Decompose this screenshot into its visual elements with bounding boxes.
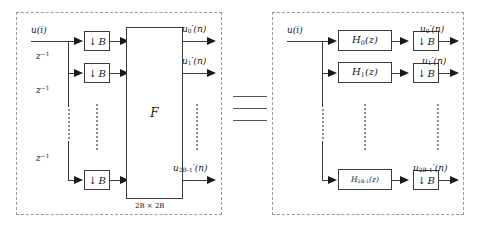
left-output-arrowhead-3 (207, 176, 216, 184)
left-delay-label-2: z−1 (36, 86, 49, 95)
right-row2-input-arrowhead (328, 69, 337, 77)
left-row3-input-arrowhead (74, 176, 83, 184)
left-output-arrowhead-1 (207, 37, 216, 45)
right-row1-mid-arrowhead (400, 37, 409, 45)
right-row2-mid-arrowhead (400, 69, 409, 77)
filter-block-h1: H1(z) (338, 62, 392, 83)
down-arrow-icon: ↓ (88, 175, 96, 186)
right-output-label-1: u0′(n) (420, 25, 444, 35)
right-output-arrowhead-3 (450, 176, 459, 184)
right-row3-input-arrowhead (328, 176, 337, 184)
left-decimator-row1: ↓B (84, 31, 110, 51)
left-delay-label-1: z−1 (36, 52, 49, 61)
right-output-label-3: u2B-1′(n) (413, 164, 448, 174)
right-bus-seg-1 (322, 41, 323, 73)
right-output-arrowhead-2 (450, 69, 459, 77)
equiv-bar-top (233, 96, 267, 97)
left-bus-seg-2 (68, 73, 69, 107)
left-bus-seg-1 (68, 41, 69, 73)
right-bus-seg-2 (322, 73, 323, 107)
down-arrow-icon: ↓ (88, 36, 96, 47)
right-filter-ellipsis (364, 104, 368, 150)
left-decimator-row3: ↓B (84, 170, 110, 190)
left-decimator-row2: ↓B (84, 63, 110, 83)
left-decimator-ellipsis (96, 104, 100, 150)
left-output-label-3: u2B-1′(n) (173, 164, 208, 174)
right-bus-seg-3 (322, 141, 323, 180)
left-output-ellipsis (196, 104, 200, 150)
right-output-label-2: u1′(n) (422, 57, 446, 67)
down-arrow-icon: ↓ (417, 36, 425, 47)
down-arrow-icon: ↓ (417, 68, 425, 79)
left-block-panel (16, 12, 222, 215)
left-output-label-1: u0′(n) (182, 25, 206, 35)
left-row1-input-arrowhead (74, 37, 83, 45)
right-output-arrowhead-1 (450, 37, 459, 45)
equiv-bar-bottom (233, 120, 267, 121)
filter-block-h-2b-1: H2B-1(z) (338, 169, 392, 190)
right-output-ellipsis (437, 104, 441, 150)
filter-block-h0: H0(z) (338, 30, 392, 51)
down-arrow-icon: ↓ (88, 68, 96, 79)
right-bus-ellipsis (322, 109, 326, 139)
left-input-label: u(i) (31, 26, 47, 35)
transform-size-label: 2B × 2B (135, 203, 165, 210)
left-input-wire (31, 41, 68, 42)
left-bus-seg-3 (68, 141, 69, 180)
left-row2-input-arrowhead (74, 69, 83, 77)
right-row1-input-arrowhead (328, 37, 337, 45)
equiv-bar-middle (233, 108, 267, 109)
equivalence-symbol (233, 96, 267, 124)
right-input-wire (287, 41, 322, 42)
left-bus-ellipsis (68, 109, 72, 139)
figure-canvas: u(i) z−1 z−1 z−1 ↓B ↓B ↓B F 2B × 2B u0′(… (0, 0, 479, 227)
left-output-arrowhead-2 (207, 69, 216, 77)
left-delay-label-3: z−1 (36, 154, 49, 163)
left-output-label-2: u1′(n) (182, 57, 206, 67)
down-arrow-icon: ↓ (417, 175, 425, 186)
right-input-label: u(i) (287, 26, 303, 35)
right-row3-mid-arrowhead (400, 176, 409, 184)
